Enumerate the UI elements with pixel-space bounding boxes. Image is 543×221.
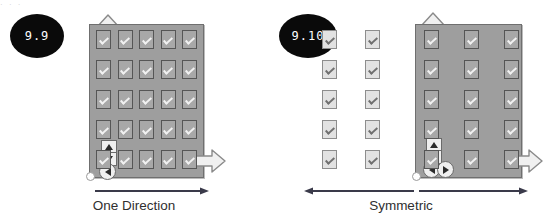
grid-item[interactable] (182, 120, 197, 139)
checkbox-checked-icon (184, 35, 194, 45)
grid-item[interactable] (139, 30, 154, 49)
checkbox-checked-icon (120, 95, 130, 105)
checkbox-checked-icon (506, 125, 516, 135)
checkbox-checked-icon (324, 125, 334, 135)
grid-item[interactable] (464, 60, 479, 79)
figure-one-direction: 9.9 (0, 0, 268, 221)
grid-item[interactable] (139, 90, 154, 109)
checkbox-checked-icon (426, 125, 436, 135)
grid-item[interactable] (504, 120, 519, 139)
checkbox-checked-icon (163, 125, 173, 135)
grid-item[interactable] (182, 60, 197, 79)
grid-item[interactable] (96, 30, 111, 49)
grid-item[interactable] (96, 120, 111, 139)
checkbox-checked-icon (367, 65, 377, 75)
grid-item[interactable] (96, 150, 111, 169)
checkbox-checked-icon (466, 65, 476, 75)
grid-item[interactable] (504, 90, 519, 109)
measure-arrow-left (303, 186, 415, 198)
checkbox-checked-icon (141, 35, 151, 45)
grid-item[interactable] (161, 150, 176, 169)
checkbox-checked-icon (324, 35, 334, 45)
checkbox-checked-icon (324, 65, 334, 75)
checkbox-checked-icon (466, 35, 476, 45)
grid-item-outside[interactable] (322, 150, 337, 169)
grid-item[interactable] (424, 90, 439, 109)
measure-arrow-right (94, 186, 210, 198)
checkbox-checked-icon (426, 95, 436, 105)
checkbox-checked-icon (98, 155, 108, 165)
checkbox-checked-icon (98, 65, 108, 75)
checkbox-checked-icon (184, 95, 194, 105)
grid-item[interactable] (464, 30, 479, 49)
checkbox-checked-icon (466, 95, 476, 105)
grid-item[interactable] (182, 90, 197, 109)
checkbox-checked-icon (506, 95, 516, 105)
checkbox-checked-icon (141, 125, 151, 135)
checkbox-checked-icon (120, 155, 130, 165)
checkbox-checked-icon (163, 65, 173, 75)
checkbox-checked-icon (184, 65, 194, 75)
checkbox-checked-icon (426, 155, 436, 165)
checkbox-checked-icon (120, 125, 130, 135)
grid-item[interactable] (424, 30, 439, 49)
grid-item[interactable] (118, 150, 133, 169)
grid-item[interactable] (161, 60, 176, 79)
grid-item[interactable] (182, 30, 197, 49)
grid-item[interactable] (504, 150, 519, 169)
grid-item[interactable] (161, 90, 176, 109)
grid-item[interactable] (139, 150, 154, 169)
grid-item[interactable] (161, 30, 176, 49)
checkbox-checked-icon (426, 35, 436, 45)
measure-arrow-right (419, 186, 529, 198)
dpad-right-button[interactable] (437, 161, 454, 178)
checkbox-checked-icon (98, 35, 108, 45)
grid-item-outside[interactable] (365, 60, 380, 79)
checkbox-checked-icon (506, 155, 516, 165)
checkbox-checked-icon (367, 95, 377, 105)
grid-item[interactable] (424, 120, 439, 139)
grid-item[interactable] (118, 120, 133, 139)
grid-item-outside[interactable] (365, 120, 380, 139)
checkbox-checked-icon (141, 95, 151, 105)
checkbox-checked-icon (120, 35, 130, 45)
grid-item-outside[interactable] (322, 60, 337, 79)
grid-item[interactable] (182, 150, 197, 169)
checkbox-checked-icon (324, 95, 334, 105)
grid-item-outside[interactable] (322, 30, 337, 49)
checkbox-checked-icon (163, 155, 173, 165)
checkbox-checked-icon (184, 155, 194, 165)
grid-item[interactable] (139, 120, 154, 139)
grid-item-outside[interactable] (365, 90, 380, 109)
figure-badge-99: 9.9 (10, 14, 64, 58)
grid-item[interactable] (504, 30, 519, 49)
grid-item[interactable] (96, 60, 111, 79)
grid-item[interactable] (96, 90, 111, 109)
checkbox-checked-icon (98, 95, 108, 105)
grid-item[interactable] (504, 60, 519, 79)
grid-item[interactable] (161, 120, 176, 139)
origin-marker-icon (86, 172, 95, 181)
grid-item[interactable] (118, 90, 133, 109)
grid-item[interactable] (464, 150, 479, 169)
checkbox-checked-icon (506, 65, 516, 75)
grid-item-outside[interactable] (322, 90, 337, 109)
figure-symmetric: 9.10 (267, 0, 535, 221)
grid-item[interactable] (139, 60, 154, 79)
grid-item[interactable] (424, 60, 439, 79)
grid-item[interactable] (118, 60, 133, 79)
grid-item-outside[interactable] (365, 30, 380, 49)
grid-item[interactable] (464, 120, 479, 139)
grid-item-outside[interactable] (365, 150, 380, 169)
checkbox-checked-icon (98, 125, 108, 135)
grid-item[interactable] (118, 30, 133, 49)
checkbox-checked-icon (506, 35, 516, 45)
checkbox-checked-icon (141, 65, 151, 75)
checkbox-checked-icon (367, 155, 377, 165)
checkbox-checked-icon (367, 125, 377, 135)
grid-item-outside[interactable] (322, 120, 337, 139)
grid-item[interactable] (464, 90, 479, 109)
grid-item[interactable] (424, 150, 439, 169)
figure-caption-symmetric: Symmetric (267, 198, 535, 213)
checkbox-checked-icon (426, 65, 436, 75)
